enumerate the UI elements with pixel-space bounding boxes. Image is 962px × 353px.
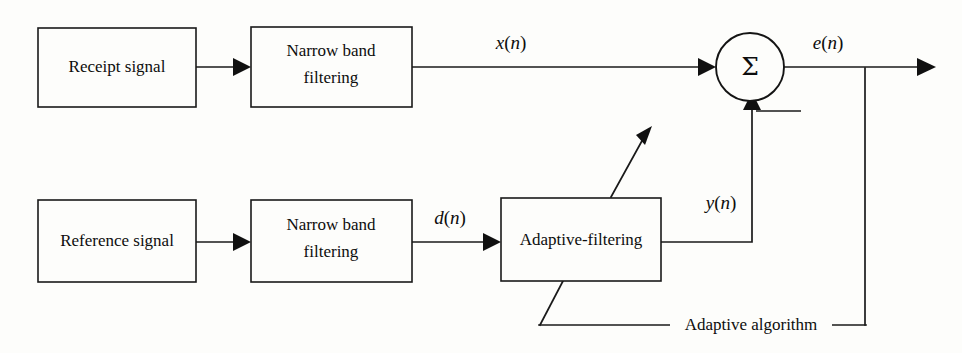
signal-y-close: ) — [730, 192, 736, 214]
label-narrow-band-top-line1: Narrow band — [286, 41, 376, 60]
signal-x-close: ) — [520, 32, 526, 54]
signal-d-index: n — [450, 207, 460, 228]
svg-text:x(n): x(n) — [495, 32, 527, 54]
signal-e-base: e — [813, 32, 821, 53]
signal-x-index: n — [510, 32, 520, 53]
arrowhead-error-diagonal — [636, 126, 652, 145]
svg-text:d(n): d(n) — [434, 207, 466, 229]
arrowhead-into-narrowband-bottom — [233, 233, 251, 251]
signal-y-base: y — [704, 192, 715, 213]
block-diagram-figure: Receipt signal Narrow band filtering Ref… — [0, 0, 962, 353]
signal-d-base: d — [434, 207, 444, 228]
label-narrow-band-bottom-line2: filtering — [304, 242, 359, 261]
signal-e-index: n — [827, 32, 837, 53]
arrowhead-into-adaptive — [483, 233, 501, 251]
diagram-canvas: Receipt signal Narrow band filtering Ref… — [0, 0, 962, 353]
signal-d-close: ) — [460, 207, 466, 229]
label-reference-signal: Reference signal — [60, 231, 174, 250]
wire-adaptive-to-sum-y — [661, 108, 752, 242]
label-adaptive-algorithm: Adaptive algorithm — [685, 315, 818, 334]
arrowhead-into-sum — [698, 58, 716, 76]
label-narrow-band-bottom-line1: Narrow band — [286, 215, 376, 234]
signal-label-y: y(n) — [704, 192, 737, 214]
svg-text:y(n): y(n) — [704, 192, 737, 214]
signal-label-e: e(n) — [813, 32, 844, 54]
signal-label-x: x(n) — [495, 32, 527, 54]
arrowhead-into-narrowband-top — [233, 58, 251, 76]
label-adaptive-filtering: Adaptive-filtering — [520, 230, 643, 249]
wire-error-diagonal-to-adaptive — [611, 139, 643, 197]
wire-adaptive-algorithm-diagonal — [540, 281, 563, 325]
label-receipt-signal: Receipt signal — [69, 57, 166, 76]
signal-label-d: d(n) — [434, 207, 466, 229]
arrowhead-output-e — [917, 58, 936, 76]
svg-text:e(n): e(n) — [813, 32, 844, 54]
signal-e-close: ) — [837, 32, 843, 54]
signal-y-index: n — [720, 192, 730, 213]
label-narrow-band-top-line2: filtering — [304, 68, 359, 87]
sigma-icon: Σ — [741, 52, 759, 81]
